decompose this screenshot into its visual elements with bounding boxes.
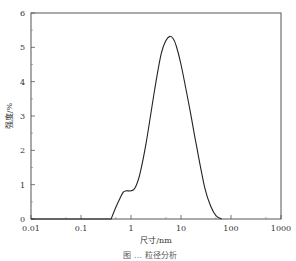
y-axis-label: 强度/% [4,102,14,129]
x-tick-label: 10 [176,224,186,233]
y-axis-tick-labels: 0123456 [20,9,25,224]
x-tick-label: 0.1 [75,224,88,233]
y-tick-label: 0 [20,215,25,224]
x-axis-label: 尺寸/nm [140,235,172,245]
x-axis-ticks [31,215,281,219]
figure-caption: 图 … 粒径分析 [123,250,176,260]
y-tick-label: 4 [20,78,25,87]
y-tick-label: 1 [20,181,25,190]
y-tick-label: 5 [20,43,25,52]
plot-frame [31,13,281,219]
particle-size-chart: 0.010.11101001000 0123456 尺寸/nm 强度/% 图 …… [0,0,296,261]
x-tick-label: 100 [223,224,238,233]
x-tick-label: 1000 [271,224,291,233]
y-axis-ticks [31,13,35,219]
y-tick-label: 6 [20,9,25,18]
x-tick-label: 0.01 [22,224,40,233]
x-axis-tick-labels: 0.010.11101001000 [22,224,291,233]
size-distribution-curve [31,36,222,219]
y-tick-label: 3 [20,112,25,121]
x-tick-label: 1 [128,224,133,233]
y-tick-label: 2 [20,146,25,155]
